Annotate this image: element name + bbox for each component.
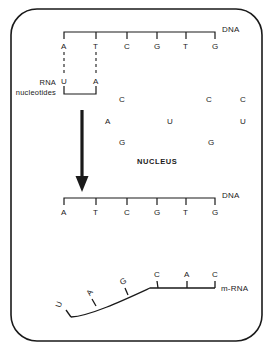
dna-top-base-2: T [93,42,98,51]
dna-bottom-base-2: T [93,208,98,217]
dna-bottom-backbone [64,198,215,205]
free-nucleotide-4: A [105,117,111,126]
mrna-label: m-RNA [221,284,248,293]
mrna-base-4: C [154,270,160,279]
free-nucleotide-1: C [119,95,125,104]
hydrogen-bonds [64,52,96,76]
diagram-canvas [0,0,273,350]
free-nucleotide-2: C [206,95,212,104]
dna-top-base-5: T [183,42,188,51]
dna-top-base-3: C [124,42,130,51]
dna-top-label: DNA [222,25,240,34]
dna-top-base-6: G [212,42,218,51]
free-nucleotide-5: U [167,117,173,126]
free-nucleotide-8: G [208,138,214,147]
dna-bottom-base-4: G [154,208,160,217]
dna-top-backbone [64,32,215,39]
dna-bottom-label: DNA [222,191,240,200]
dna-bottom-base-5: T [183,208,188,217]
downward-transcription-arrow [76,110,89,192]
dna-top-base-1: A [61,42,67,51]
rna-nucleotides-label-line1: RNA [8,78,56,88]
dna-top-base-4: G [154,42,160,51]
free-nucleotide-3: C [240,95,246,104]
mrna-base-5: A [184,270,190,279]
rna-nucleotides-label-line2: nucleotides [0,88,56,98]
dna-bottom-base-6: G [212,208,218,217]
mrna-base-6: C [212,270,218,279]
free-nucleotide-6: U [240,117,246,126]
rna-paired-base-a: A [93,77,99,86]
dna-bottom-base-3: C [124,208,130,217]
free-nucleotide-7: G [119,138,125,147]
dna-bottom-base-1: A [61,208,67,217]
nucleus-label: NUCLEUS [137,157,177,166]
transcription-diagram: DNA A T C G T G RNA nucleotides U A C C … [0,0,273,350]
rna-nucleotide-bracket [64,86,96,94]
rna-paired-base-u: U [61,77,67,86]
